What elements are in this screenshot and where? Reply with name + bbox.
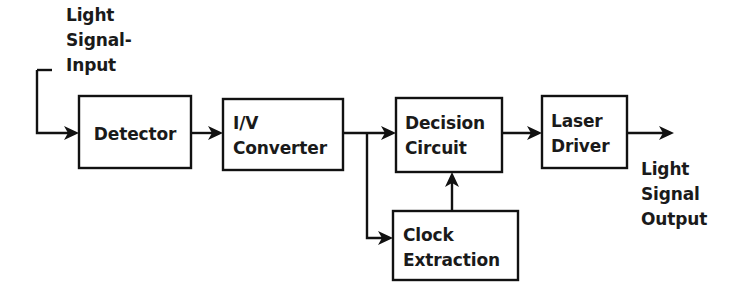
light-signal-output-line-1: Light bbox=[641, 159, 689, 179]
clock-extraction-label-line-2: Extraction bbox=[403, 250, 500, 270]
block-iv-converter[interactable]: I/V Converter bbox=[223, 99, 343, 170]
decision-circuit-box[interactable] bbox=[396, 98, 502, 172]
decision-circuit-label-line-1: Decision bbox=[405, 113, 485, 133]
block-clock-extraction[interactable]: Clock Extraction bbox=[393, 211, 518, 280]
laser-driver-label-line-1: Laser bbox=[551, 111, 603, 131]
block-laser-driver[interactable]: Laser Driver bbox=[542, 96, 627, 168]
block-detector[interactable]: Detector bbox=[79, 96, 191, 168]
light-signal-input-line-1: Light bbox=[66, 5, 114, 25]
light-signal-input-line-2: Signal- bbox=[66, 30, 132, 50]
detector-label-line-1: Detector bbox=[94, 124, 177, 144]
wire-light-signal-input-to-detector bbox=[37, 70, 73, 133]
light-signal-output-line-2: Signal bbox=[641, 184, 700, 204]
light-signal-input-line-3: Input bbox=[66, 55, 116, 75]
decision-circuit-label-line-2: Circuit bbox=[405, 138, 467, 158]
block-decision-circuit[interactable]: Decision Circuit bbox=[396, 98, 502, 172]
optical-repeater-diagram: Detector I/V Converter Decision Circuit … bbox=[0, 0, 739, 302]
iv-converter-label-line-1: I/V bbox=[233, 113, 259, 133]
light-signal-output-line-3: Output bbox=[641, 209, 707, 229]
iv-converter-label-line-2: Converter bbox=[233, 138, 328, 158]
iv-converter-box[interactable] bbox=[223, 99, 343, 170]
laser-driver-box[interactable] bbox=[542, 96, 627, 168]
laser-driver-label-line-2: Driver bbox=[551, 136, 610, 156]
label-light-signal-output: Light Signal Output bbox=[641, 159, 707, 229]
clock-extraction-label-line-1: Clock bbox=[403, 225, 454, 245]
wire-iv-converter-to-clock-extraction bbox=[367, 133, 387, 238]
block-diagram-canvas: Detector I/V Converter Decision Circuit … bbox=[0, 0, 739, 302]
label-light-signal-input: Light Signal- Input bbox=[66, 5, 132, 75]
